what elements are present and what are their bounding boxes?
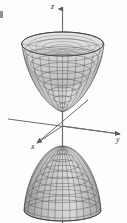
x-axis-foreground	[37, 126, 63, 143]
z-axis-label: z	[51, 3, 54, 11]
hyperboloid-figure: z y x	[0, 0, 127, 223]
y-axis-label: y	[116, 136, 120, 144]
axes-foreground	[37, 112, 120, 146]
x-axis-label: x	[31, 143, 35, 151]
hyperboloid-diagram	[0, 0, 127, 223]
lower-sheet	[24, 146, 101, 222]
upper-sheet	[22, 32, 105, 112]
y-axis-foreground	[63, 126, 121, 134]
